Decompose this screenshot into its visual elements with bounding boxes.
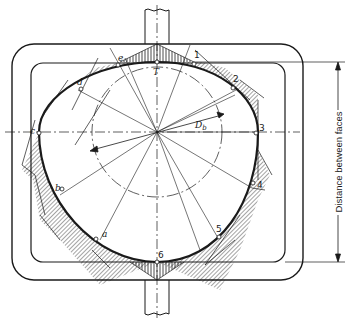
- label-d: d: [77, 77, 83, 87]
- label-a: a: [102, 229, 107, 239]
- dimension-label: Distance between faces: [333, 111, 344, 212]
- label-6: 6: [158, 250, 164, 260]
- label-diameter: Db: [194, 120, 207, 132]
- label-3: 3: [259, 123, 265, 133]
- label-c: c: [30, 126, 35, 136]
- label-5: 5: [216, 224, 222, 234]
- label-1: 1: [194, 50, 200, 60]
- label-4: 4: [257, 180, 263, 190]
- label-e: e: [118, 53, 123, 63]
- label-2: 2: [233, 74, 239, 84]
- diagram-canvas: T 1 2 3 4 5 6 a b c d e Db Distance betw…: [0, 0, 351, 320]
- label-b: b: [55, 183, 61, 193]
- label-T: T: [153, 67, 160, 77]
